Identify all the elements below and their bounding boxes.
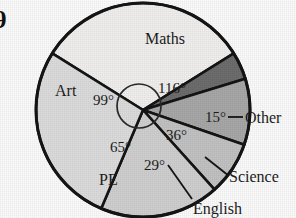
slice-label-science: Science [229, 168, 279, 185]
slice-angle-english: 29° [144, 157, 165, 173]
slice-angle-art: 99° [93, 92, 114, 108]
pie-chart: Maths Art PE English Science Other 116° … [0, 0, 296, 218]
slice-angle-pe: 65° [110, 139, 131, 155]
slice-label-pe: PE [99, 171, 118, 188]
slice-label-other: Other [245, 109, 282, 126]
scanned-page: 9 Maths Art PE English Scienc [0, 0, 296, 218]
slice-angle-maths: 116° [158, 80, 186, 96]
slice-angle-science: 36° [166, 127, 187, 143]
slice-angle-other: 15° [205, 109, 226, 125]
slice-label-art: Art [55, 82, 77, 99]
slice-label-english: English [193, 200, 242, 218]
slice-label-maths: Maths [145, 30, 185, 47]
